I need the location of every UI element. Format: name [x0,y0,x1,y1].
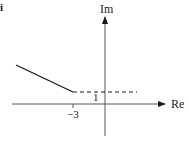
diagram-canvas [0,0,189,143]
imaginary-axis-label: Im [100,3,113,15]
part-label: i [0,2,3,13]
argand-diagram: i Im Re 1 −3 [0,0,189,143]
real-axis-label: Re [171,98,184,110]
solid-ray [16,65,73,92]
imag-tick-label: 1 [93,92,99,103]
real-tick-label: −3 [67,109,79,120]
